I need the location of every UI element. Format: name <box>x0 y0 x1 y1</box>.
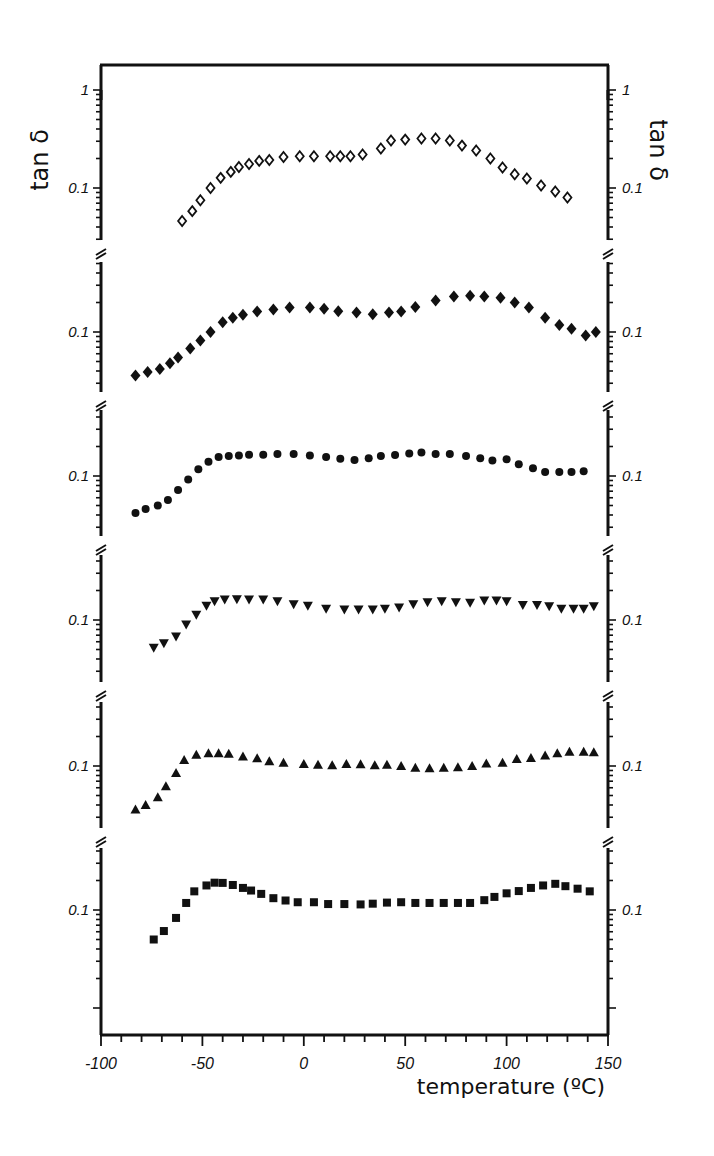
y-tick-label-0-1: 0.1 <box>68 757 89 774</box>
data-point-filled-diamond <box>410 301 420 313</box>
data-point-open-diamond <box>265 155 273 165</box>
data-point-up-triangle <box>512 754 522 763</box>
axis-break-icon <box>603 249 613 259</box>
data-point-filled-diamond <box>368 308 378 320</box>
data-point-filled-diamond <box>431 294 441 306</box>
data-point-filled-circle <box>446 450 454 458</box>
data-point-up-triangle <box>410 763 420 772</box>
data-point-filled-circle <box>235 451 243 459</box>
data-point-down-triangle <box>579 605 589 614</box>
data-point-open-diamond <box>359 149 367 159</box>
data-point-down-triangle <box>258 595 268 604</box>
data-point-filled-circle <box>215 453 223 461</box>
data-point-filled-diamond <box>591 326 601 338</box>
axis-break-icon <box>96 691 106 701</box>
data-point-open-diamond <box>196 195 204 205</box>
x-tick-label: 150 <box>595 1055 622 1072</box>
data-point-filled-diamond <box>155 363 165 375</box>
data-point-up-triangle <box>264 756 274 765</box>
data-point-filled-diamond <box>465 290 475 302</box>
data-point-filled-diamond <box>319 303 329 315</box>
data-point-filled-diamond <box>268 303 278 315</box>
data-point-filled-diamond <box>496 292 506 304</box>
data-point-filled-square <box>282 897 290 905</box>
data-point-down-triangle <box>272 597 282 606</box>
y-tick-label-0-1: 0.1 <box>622 901 643 918</box>
y-tick-label-0-1: 0.1 <box>68 323 89 340</box>
axis-break-icon <box>603 837 613 847</box>
series-filled-down-triangle <box>149 595 599 653</box>
x-axis-title: temperature (ºC) <box>417 1074 605 1099</box>
axis-break-icon <box>603 401 613 411</box>
data-point-filled-circle <box>164 496 172 504</box>
panel-4: 0.10.1 <box>68 555 643 701</box>
data-point-filled-circle <box>245 451 253 459</box>
data-point-down-triangle <box>479 597 489 606</box>
data-point-up-triangle <box>370 760 380 769</box>
data-point-down-triangle <box>354 605 364 614</box>
data-point-filled-square <box>503 889 511 897</box>
data-point-up-triangle <box>203 748 213 757</box>
data-point-filled-square <box>383 899 391 907</box>
data-point-filled-square <box>539 881 547 889</box>
data-point-up-triangle <box>214 748 224 757</box>
data-point-filled-diamond <box>238 309 248 321</box>
data-point-down-triangle <box>502 597 512 606</box>
data-point-filled-square <box>515 887 523 895</box>
data-point-open-diamond <box>486 153 494 163</box>
data-point-filled-circle <box>131 509 139 517</box>
series-filled-up-triangle <box>130 747 598 814</box>
data-point-open-diamond <box>296 151 304 161</box>
data-point-filled-circle <box>204 458 212 466</box>
data-point-up-triangle <box>439 763 449 772</box>
data-point-filled-square <box>397 898 405 906</box>
data-point-filled-circle <box>405 449 413 457</box>
data-point-filled-square <box>150 936 158 944</box>
data-point-filled-circle <box>259 451 267 459</box>
data-point-up-triangle <box>224 749 234 758</box>
data-point-up-triangle <box>425 763 435 772</box>
axis-break-icon <box>603 691 613 701</box>
data-point-down-triangle <box>321 605 331 614</box>
data-point-open-diamond <box>326 151 334 161</box>
series-filled-square <box>150 879 594 944</box>
data-point-up-triangle <box>153 792 163 801</box>
x-axis: -100-50050100150 <box>85 1035 621 1072</box>
stacked-panels: 10.110.10.10.10.10.10.10.10.10.10.10.1 <box>68 81 643 1035</box>
data-point-up-triangle <box>191 750 201 759</box>
data-point-filled-square <box>160 927 168 935</box>
axis-break-icon <box>603 545 613 555</box>
panel-3: 0.10.1 <box>68 410 643 555</box>
data-point-up-triangle <box>141 800 151 809</box>
data-point-filled-circle <box>417 448 425 456</box>
data-point-filled-circle <box>567 468 575 476</box>
data-point-filled-square <box>466 899 474 907</box>
data-point-filled-square <box>239 884 247 892</box>
y-tick-label-0-1: 0.1 <box>622 467 643 484</box>
data-point-filled-diamond <box>195 334 205 346</box>
x-tick-label: -100 <box>85 1055 117 1072</box>
data-point-down-triangle <box>544 602 554 611</box>
data-point-filled-circle <box>529 464 537 472</box>
data-point-filled-circle <box>365 454 373 462</box>
data-point-down-triangle <box>556 605 566 614</box>
data-point-up-triangle <box>356 759 366 768</box>
data-point-filled-circle <box>290 450 298 458</box>
data-point-filled-circle <box>351 456 359 464</box>
data-point-filled-square <box>586 887 594 895</box>
data-point-filled-square <box>172 914 180 922</box>
data-point-up-triangle <box>382 760 392 769</box>
data-point-filled-diamond <box>206 326 216 338</box>
data-point-filled-diamond <box>581 330 591 342</box>
y-tick-label-0-1: 0.1 <box>622 757 643 774</box>
data-point-filled-square <box>490 893 498 901</box>
data-point-up-triangle <box>552 748 562 757</box>
data-point-down-triangle <box>532 601 542 610</box>
data-point-filled-square <box>182 899 190 907</box>
data-point-up-triangle <box>161 781 171 790</box>
data-point-open-diamond <box>346 151 354 161</box>
data-point-up-triangle <box>526 753 536 762</box>
data-point-open-diamond <box>207 183 215 193</box>
data-point-filled-circle <box>476 454 484 462</box>
data-point-filled-square <box>211 879 219 887</box>
